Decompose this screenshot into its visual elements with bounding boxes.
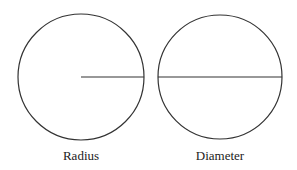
diameter-label: Diameter: [196, 148, 245, 163]
radius-label: Radius: [63, 148, 99, 163]
diameter-figure: Diameter: [158, 15, 282, 163]
circle-diagram: Radius Diameter: [0, 0, 297, 170]
radius-figure: Radius: [18, 14, 144, 163]
